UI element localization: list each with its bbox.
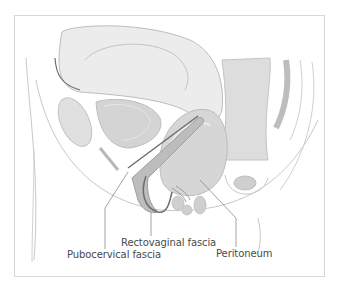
spine-column (276, 60, 287, 128)
body-contour-right (258, 218, 260, 252)
urethra (100, 148, 118, 170)
sacrum (222, 58, 270, 160)
spine-outline (290, 60, 302, 140)
body-contour-left-lower (32, 150, 34, 262)
label-rectovaginal-fascia: Rectovaginal fascia (121, 237, 216, 248)
perineal-body-2 (182, 205, 192, 215)
label-peritoneum: Peritoneum (216, 248, 272, 259)
perineal-body-3 (194, 196, 206, 214)
rectum (234, 176, 256, 190)
label-pubocervical-fascia: Pubocervical fascia (67, 249, 161, 260)
bladder (96, 99, 161, 148)
